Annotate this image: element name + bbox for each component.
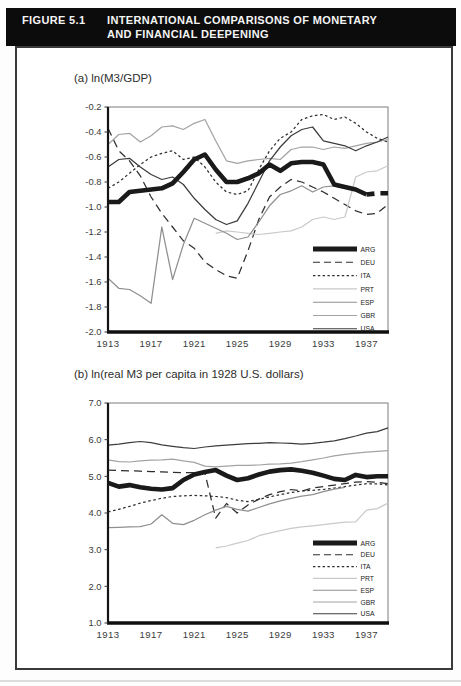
- legend-label-gbr-a: GBR: [361, 312, 376, 319]
- legend-label-deu-a: DEU: [361, 259, 375, 266]
- x-tick-label-b: 1921: [183, 629, 206, 640]
- y-tick-label-a: -1.2: [85, 226, 101, 237]
- series-line-esp-b: [108, 487, 345, 527]
- x-tick-label-b: 1937: [355, 629, 378, 640]
- y-tick-label-b: 1.0: [88, 617, 101, 628]
- x-tick-label-b: 1925: [226, 629, 249, 640]
- series-line-gbr-b: [108, 451, 388, 467]
- legend-label-prt-a: PRT: [361, 286, 374, 293]
- legend-label-arg-b: ARG: [361, 540, 376, 547]
- x-tick-label-b: 1917: [140, 629, 163, 640]
- chart-a-frame: [108, 107, 388, 332]
- y-tick-label-a: -1.8: [85, 301, 101, 312]
- page-edge-line: [0, 680, 461, 682]
- legend-label-esp-b: ESP: [361, 587, 375, 594]
- series-line-ita-a: [108, 115, 388, 195]
- series-line-arg-a: [367, 193, 389, 194]
- x-tick-label-a: 1937: [355, 338, 378, 349]
- x-tick-label-b: 1933: [312, 629, 335, 640]
- legend-label-ita-a: ITA: [361, 272, 372, 279]
- x-tick-label-a: 1913: [97, 338, 120, 349]
- series-line-usa-b: [108, 428, 388, 449]
- y-tick-label-a: -1.4: [85, 251, 101, 262]
- series-line-gbr-a: [108, 120, 388, 164]
- y-tick-label-b: 4.0: [88, 507, 101, 518]
- x-tick-label-a: 1929: [269, 338, 292, 349]
- legend-label-prt-b: PRT: [361, 575, 374, 582]
- y-tick-label-a: -1.0: [85, 201, 101, 212]
- page: FIGURE 5.1 INTERNATIONAL COMPARISONS OF …: [0, 0, 461, 686]
- legend-label-usa-a: USA: [361, 325, 375, 332]
- y-tick-label-a: -0.2: [85, 101, 101, 112]
- figure-canvas: -0.2-0.4-0.6-0.8-1.0-1.2-1.4-1.6-1.8-2.0…: [0, 0, 461, 686]
- y-tick-label-b: 3.0: [88, 544, 101, 555]
- y-tick-label-a: -0.6: [85, 151, 101, 162]
- y-tick-label-a: -0.8: [85, 176, 101, 187]
- x-tick-label-a: 1921: [183, 338, 206, 349]
- legend-label-arg-a: ARG: [361, 246, 376, 253]
- y-tick-label-b: 5.0: [88, 471, 101, 482]
- y-tick-label-b: 7.0: [88, 397, 101, 408]
- series-line-esp-a: [108, 186, 345, 303]
- y-tick-label-b: 6.0: [88, 434, 101, 445]
- series-line-usa-a: [108, 127, 388, 225]
- x-tick-label-a: 1925: [226, 338, 249, 349]
- y-tick-label-a: -1.6: [85, 276, 101, 287]
- legend-label-esp-a: ESP: [361, 299, 375, 306]
- legend-label-gbr-b: GBR: [361, 599, 376, 606]
- x-tick-label-b: 1913: [97, 629, 120, 640]
- x-tick-label-a: 1917: [140, 338, 163, 349]
- y-tick-label-a: -2.0: [85, 326, 101, 337]
- y-tick-label-a: -0.4: [85, 126, 101, 137]
- x-tick-label-a: 1933: [312, 338, 335, 349]
- series-line-prt-a: [216, 166, 388, 235]
- y-tick-label-b: 2.0: [88, 581, 101, 592]
- legend-label-ita-b: ITA: [361, 563, 372, 570]
- legend-label-usa-b: USA: [361, 610, 375, 617]
- legend-label-deu-b: DEU: [361, 551, 375, 558]
- x-tick-label-b: 1929: [269, 629, 292, 640]
